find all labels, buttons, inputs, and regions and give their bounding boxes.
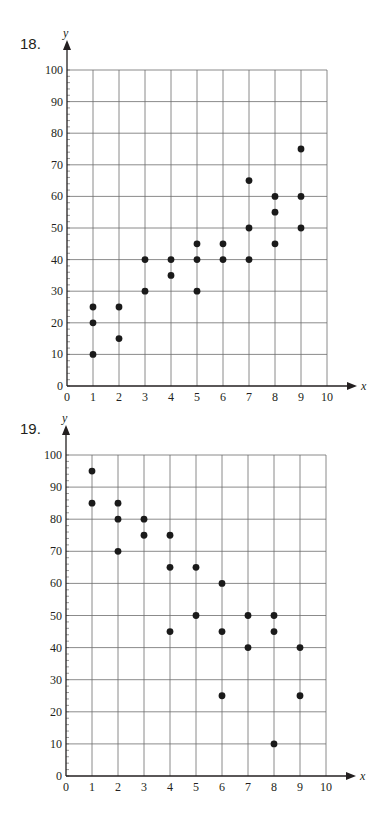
data-point <box>115 548 122 555</box>
x-axis-label: x <box>360 379 367 393</box>
y-tick-label: 20 <box>50 705 62 719</box>
y-tick-label: 30 <box>50 673 62 687</box>
data-point <box>298 225 305 232</box>
data-point <box>167 564 174 571</box>
data-point <box>89 500 96 507</box>
y-axis-label: y <box>61 411 68 425</box>
data-point <box>141 516 148 523</box>
y-tick-label: 30 <box>51 284 63 298</box>
y-tick-label: 10 <box>51 347 63 361</box>
x-tick-label: 0 <box>63 780 69 794</box>
x-tick-label: 2 <box>115 780 121 794</box>
y-tick-label: 90 <box>50 480 62 494</box>
data-point <box>115 516 122 523</box>
data-point <box>194 288 201 295</box>
data-point <box>142 256 149 263</box>
data-point <box>116 304 123 311</box>
y-tick-label: 40 <box>51 253 63 267</box>
y-tick-label: 100 <box>45 63 63 77</box>
x-axis-arrow-icon <box>346 772 356 780</box>
scatter-plot-18: xy0123456789100102030405060708090100 <box>0 0 380 410</box>
y-axis-label: y <box>62 26 69 40</box>
x-tick-label: 4 <box>167 780 173 794</box>
data-point <box>168 256 175 263</box>
data-point <box>194 240 201 247</box>
data-point <box>90 351 97 358</box>
data-point <box>246 225 253 232</box>
data-point <box>246 177 253 184</box>
data-point <box>219 580 226 587</box>
y-tick-label: 20 <box>51 316 63 330</box>
data-point <box>272 193 279 200</box>
x-tick-label: 1 <box>89 780 95 794</box>
data-point <box>115 500 122 507</box>
data-point <box>194 256 201 263</box>
data-point <box>89 468 96 475</box>
data-point <box>220 240 227 247</box>
data-point <box>168 272 175 279</box>
data-point <box>142 288 149 295</box>
y-tick-label: 0 <box>57 379 63 393</box>
x-tick-label: 3 <box>141 780 147 794</box>
y-tick-label: 50 <box>50 609 62 623</box>
data-point <box>272 209 279 216</box>
y-tick-label: 10 <box>50 737 62 751</box>
y-tick-label: 100 <box>44 448 62 462</box>
data-point <box>297 692 304 699</box>
scatter-plot-19: xy0123456789100102030405060708090100 <box>0 400 380 830</box>
data-point <box>167 532 174 539</box>
x-tick-label: 6 <box>219 780 225 794</box>
data-point <box>167 628 174 635</box>
x-tick-label: 10 <box>320 780 332 794</box>
data-point <box>271 612 278 619</box>
x-tick-label: 9 <box>297 780 303 794</box>
data-point <box>298 146 305 153</box>
data-point <box>90 304 97 311</box>
y-axis-arrow-icon <box>63 40 71 50</box>
data-point <box>219 628 226 635</box>
y-tick-label: 40 <box>50 641 62 655</box>
y-tick-label: 90 <box>51 95 63 109</box>
data-point <box>271 628 278 635</box>
data-point <box>141 532 148 539</box>
y-tick-label: 0 <box>56 769 62 783</box>
data-point <box>245 644 252 651</box>
y-tick-label: 60 <box>51 189 63 203</box>
data-point <box>271 741 278 748</box>
data-point <box>220 256 227 263</box>
y-tick-label: 70 <box>51 158 63 172</box>
problem-19: 19. xy0123456789100102030405060708090100 <box>0 400 380 830</box>
x-tick-label: 8 <box>271 780 277 794</box>
data-point <box>246 256 253 263</box>
data-point <box>116 335 123 342</box>
data-point <box>298 193 305 200</box>
x-tick-label: 7 <box>245 780 251 794</box>
x-axis-label: x <box>359 769 366 783</box>
x-axis-arrow-icon <box>347 382 357 390</box>
problem-18: 18. xy0123456789100102030405060708090100 <box>0 0 380 410</box>
y-axis-arrow-icon <box>62 425 70 435</box>
y-tick-label: 50 <box>51 221 63 235</box>
y-tick-label: 80 <box>50 512 62 526</box>
data-point <box>272 240 279 247</box>
data-point <box>245 612 252 619</box>
data-point <box>219 692 226 699</box>
data-point <box>193 564 200 571</box>
x-tick-label: 5 <box>193 780 199 794</box>
y-tick-label: 70 <box>50 544 62 558</box>
grid-lines <box>67 70 327 386</box>
y-tick-label: 60 <box>50 576 62 590</box>
data-point <box>193 612 200 619</box>
data-point <box>90 319 97 326</box>
y-tick-label: 80 <box>51 126 63 140</box>
data-point <box>297 644 304 651</box>
